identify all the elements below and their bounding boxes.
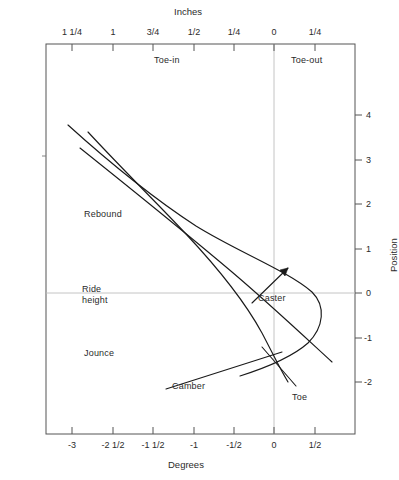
bottom-tick-label-neg1-2: -1/2 bbox=[226, 440, 242, 450]
top-tick-label-1-1-4: 1 1/4 bbox=[62, 27, 82, 37]
bottom-tick-label-neg3: -3 bbox=[68, 440, 76, 450]
top-tick-label-1-4: 1/4 bbox=[228, 27, 241, 37]
curve-label-toe: Toe bbox=[292, 392, 307, 402]
bottom-tick-label-neg1: -1 bbox=[190, 440, 198, 450]
region-label-toe-in: Toe-in bbox=[154, 55, 180, 65]
top-tick-label-3-4: 3/4 bbox=[147, 27, 160, 37]
top-axis-title: Inches bbox=[174, 6, 202, 17]
right-tick-label-neg2: -2 bbox=[364, 377, 372, 387]
bottom-tick-label-0: 0 bbox=[271, 440, 276, 450]
right-tick-label-neg1: -1 bbox=[364, 333, 372, 343]
bottom-tick-label-neg2-1-2: -2 1/2 bbox=[101, 440, 124, 450]
right-tick-label-0: 0 bbox=[366, 288, 371, 298]
zone-label-ride: Ride bbox=[82, 284, 101, 294]
curve-camber bbox=[88, 132, 288, 382]
right-tick-label-3: 3 bbox=[366, 155, 371, 165]
curve-toe bbox=[80, 148, 332, 362]
top-tick-label-0: 0 bbox=[271, 27, 276, 37]
curve-label-camber: Camber bbox=[172, 381, 205, 391]
curve-caster bbox=[68, 125, 321, 376]
zone-label-height: height bbox=[82, 295, 108, 305]
top-tick-label-1: 1 bbox=[110, 27, 115, 37]
curve-label-caster: Caster bbox=[258, 293, 286, 303]
plot-frame bbox=[46, 44, 355, 434]
bottom-axis-title: Degrees bbox=[168, 459, 204, 470]
right-axis-title: Position bbox=[388, 238, 399, 272]
right-tick-label-2: 2 bbox=[366, 199, 371, 209]
right-tick-label-1: 1 bbox=[366, 244, 371, 254]
top-tick-label-1-2: 1/2 bbox=[188, 27, 201, 37]
right-tick-label-4: 4 bbox=[366, 110, 371, 120]
bottom-tick-label-neg1-1-2: -1 1/2 bbox=[141, 440, 164, 450]
gridlines bbox=[46, 44, 355, 434]
zone-label-rebound: Rebound bbox=[84, 209, 122, 219]
top-axis-ticks bbox=[72, 44, 315, 51]
region-label-toe-out: Toe-out bbox=[291, 55, 322, 65]
right-axis-ticks bbox=[355, 115, 362, 382]
bottom-tick-label-1-2: 1/2 bbox=[309, 440, 322, 450]
bottom-axis-ticks bbox=[72, 427, 315, 434]
top-tick-label-1-4-right: 1/4 bbox=[309, 27, 322, 37]
zone-label-jounce: Jounce bbox=[84, 348, 114, 358]
